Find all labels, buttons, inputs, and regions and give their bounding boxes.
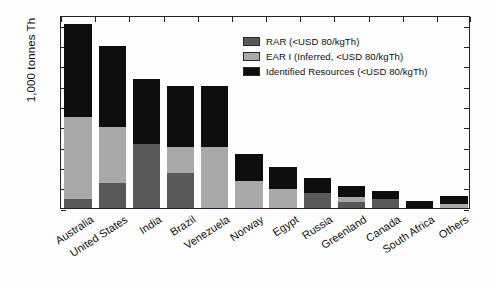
bar-segment xyxy=(167,86,194,148)
bar-norway[interactable] xyxy=(235,154,262,208)
bar-segment xyxy=(235,181,262,208)
bar-segment xyxy=(372,191,399,199)
x-tick-mark xyxy=(437,17,438,22)
bar-australia[interactable] xyxy=(64,24,91,208)
y-tick-mark xyxy=(61,210,66,211)
bar-segment xyxy=(167,147,194,173)
x-tick-mark xyxy=(164,17,165,22)
bar-egypt[interactable] xyxy=(269,167,296,208)
legend-label: EAR I (Inferred, <USD 80/kgTh) xyxy=(266,51,403,62)
legend-item[interactable]: RAR (<USD 80/kgTh) xyxy=(243,36,427,47)
bar-brazil[interactable] xyxy=(167,86,194,208)
chart-figure: 1,000 tonnes Th 010020030040050060070080… xyxy=(0,0,492,286)
bar-segment xyxy=(167,173,194,208)
legend-color-swatch xyxy=(243,67,260,76)
bar-segment xyxy=(64,117,91,199)
x-tick-mark xyxy=(95,17,96,22)
x-tick-mark xyxy=(61,17,62,22)
bar-segment xyxy=(440,196,467,204)
bar-segment xyxy=(440,204,467,208)
y-tick-mark xyxy=(464,189,469,190)
bar-segment xyxy=(372,199,399,208)
x-tick-label: Egypt xyxy=(270,213,300,238)
y-tick-mark xyxy=(464,47,469,48)
x-tick-label: Norway xyxy=(228,213,266,243)
y-tick-mark xyxy=(464,27,469,28)
bar-segment xyxy=(64,24,91,116)
x-tick-mark xyxy=(334,17,335,22)
bar-greenland[interactable] xyxy=(338,186,365,208)
legend-label: RAR (<USD 80/kgTh) xyxy=(266,36,359,47)
legend-item[interactable]: Identified Resources (<USD 80/kgTh) xyxy=(243,66,427,77)
y-tick-mark xyxy=(464,149,469,150)
bar-segment xyxy=(304,193,331,208)
bar-segment xyxy=(406,201,433,208)
x-tick-label: India xyxy=(137,213,164,236)
x-tick-mark xyxy=(266,17,267,22)
y-tick-mark xyxy=(464,108,469,109)
bar-venezuela[interactable] xyxy=(201,86,228,208)
bar-segment xyxy=(304,178,331,193)
y-tick-mark xyxy=(464,169,469,170)
bar-others[interactable] xyxy=(440,196,467,208)
bar-canada[interactable] xyxy=(372,191,399,208)
legend-item[interactable]: EAR I (Inferred, <USD 80/kgTh) xyxy=(243,51,427,62)
bar-segment xyxy=(269,167,296,188)
bar-russia[interactable] xyxy=(304,178,331,208)
y-axis-title: 1,000 tonnes Th xyxy=(25,0,37,145)
bar-segment xyxy=(99,183,126,208)
x-tick-mark xyxy=(232,17,233,22)
x-tick-mark xyxy=(129,17,130,22)
legend-label: Identified Resources (<USD 80/kgTh) xyxy=(266,66,427,77)
legend-color-swatch xyxy=(243,37,260,46)
x-tick-mark xyxy=(470,17,471,22)
y-tick-mark xyxy=(464,128,469,129)
y-tick-mark xyxy=(464,88,469,89)
bar-south-africa[interactable] xyxy=(406,201,433,208)
bar-segment xyxy=(269,189,296,208)
bar-segment xyxy=(235,154,262,181)
x-tick-mark xyxy=(369,17,370,22)
bar-segment xyxy=(64,199,91,208)
chart-legend: RAR (<USD 80/kgTh)EAR I (Inferred, <USD … xyxy=(243,36,427,77)
bar-india[interactable] xyxy=(133,79,160,208)
bar-segment xyxy=(99,46,126,128)
bar-segment xyxy=(338,202,365,209)
x-tick-mark xyxy=(198,17,199,22)
y-tick-mark xyxy=(464,210,469,211)
bar-segment xyxy=(133,144,160,208)
x-tick-label: Others xyxy=(437,213,471,241)
bar-united-states[interactable] xyxy=(99,46,126,209)
bar-segment xyxy=(201,147,228,208)
bar-segment xyxy=(201,86,228,147)
y-tick-mark xyxy=(464,67,469,68)
legend-color-swatch xyxy=(243,52,260,61)
bar-segment xyxy=(99,127,126,183)
x-tick-mark xyxy=(300,17,301,22)
bar-segment xyxy=(338,186,365,197)
x-tick-mark xyxy=(403,17,404,22)
bar-segment xyxy=(133,79,160,144)
